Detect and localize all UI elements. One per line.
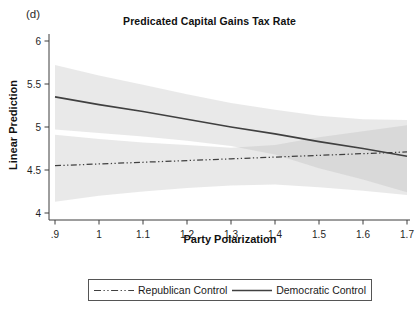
y-tick-label: 5 bbox=[35, 122, 41, 133]
y-tick-label: 4.5 bbox=[27, 165, 41, 176]
plot-area: 44.555.56.911.11.21.31.41.51.61.7 bbox=[0, 0, 419, 260]
x-axis-title: Party Polarization bbox=[50, 233, 410, 245]
figure-panel-d: (d) Predicated Capital Gains Tax Rate Li… bbox=[0, 0, 419, 313]
dash-dot-line-sample-icon bbox=[94, 286, 134, 295]
legend: Republican Control Democratic Control bbox=[88, 279, 372, 301]
y-tick-label: 4 bbox=[35, 208, 41, 219]
y-tick-label: 6 bbox=[35, 36, 41, 47]
legend-item-democratic: Democratic Control bbox=[232, 284, 366, 296]
y-tick-label: 5.5 bbox=[27, 79, 41, 90]
legend-item-republican: Republican Control bbox=[94, 284, 227, 296]
solid-line-sample-icon bbox=[232, 286, 272, 295]
legend-label-republican: Republican Control bbox=[138, 284, 227, 296]
legend-label-democratic: Democratic Control bbox=[276, 284, 366, 296]
